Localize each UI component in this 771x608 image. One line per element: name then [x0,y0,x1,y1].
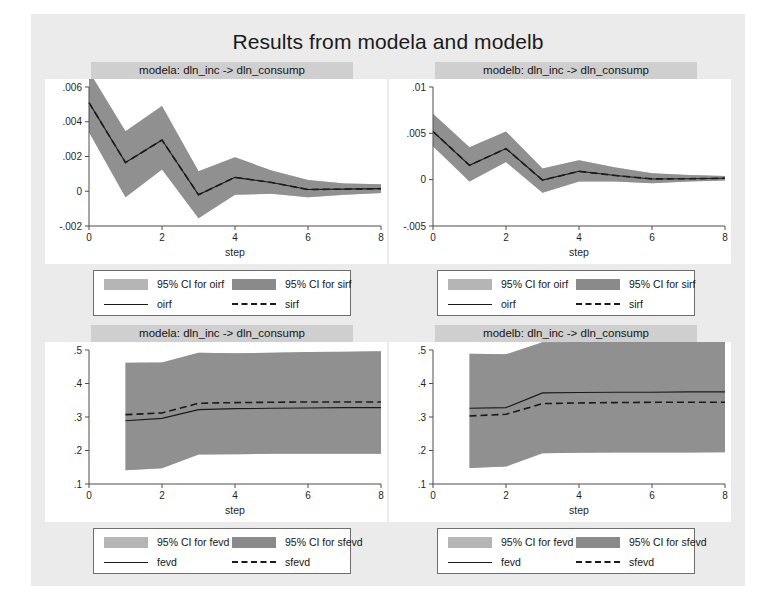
y-tick-label: -.002 [59,221,82,232]
legend-line-glyph [448,562,492,563]
x-tick-label: 0 [86,232,92,243]
legend-box: 95% CI for oirf95% CI for sirfoirfsirf [93,270,351,316]
legend-dashed-line-icon [232,299,276,310]
y-tick-label: .1 [418,479,427,490]
x-tick-label: 4 [232,490,238,501]
plot-area: -.0050.005.0102468step [389,79,731,264]
legend-item: sirf [232,297,299,311]
legend-line-glyph [232,561,276,563]
legend-label: sfevd [629,556,654,568]
legend-label: sfevd [285,556,310,568]
legend-swatch-icon [232,279,276,290]
legend-line-glyph [448,304,492,305]
x-tick-label: 8 [378,232,384,243]
legend-label: oirf [157,298,172,310]
x-tick-label: 8 [378,490,384,501]
legend-box: 95% CI for oirf95% CI for sirfoirfsirf [437,270,695,316]
y-tick-label: .5 [418,345,427,356]
legend-swatch-icon [576,537,620,548]
legend-inner: 95% CI for fevd95% CI for sfevdfevdsfevd [94,529,350,573]
legend-label: 95% CI for sfevd [285,536,363,548]
legend-dashed-line-icon [576,557,620,568]
figure-canvas: Results from modela and modelb modela: d… [31,14,745,586]
x-tick-label: 6 [649,232,655,243]
legend-label: 95% CI for sfevd [629,536,707,548]
plot-area: .1.2.3.4.502468step [45,342,387,522]
legend-box: 95% CI for fevd95% CI for sfevdfevdsfevd [93,528,351,574]
legend-swatch-icon [448,537,492,548]
legend-swatch-icon [232,537,276,548]
legend-solid-line-icon [104,299,148,310]
ci-band-sfevd [126,351,382,470]
y-tick-label: .2 [418,445,427,456]
y-tick-label: .002 [63,151,83,162]
x-tick-label: 0 [86,490,92,501]
y-tick-label: .3 [418,412,427,423]
legend-line-glyph [576,303,620,305]
legend-item: sirf [576,297,643,311]
x-tick-label: 6 [305,232,311,243]
legend-solid-line-icon [104,557,148,568]
y-tick-label: .01 [412,82,426,93]
legend-item: 95% CI for sirf [576,277,696,291]
legend-label: fevd [157,556,177,568]
y-tick-label: .4 [418,378,427,389]
legend-label: 95% CI for sirf [285,278,352,290]
legend-item: 95% CI for sfevd [576,535,707,549]
legend-inner: 95% CI for oirf95% CI for sirfoirfsirf [438,271,694,315]
legend-item: 95% CI for oirf [104,277,224,291]
legend-line-glyph [104,304,148,305]
x-tick-label: 4 [232,232,238,243]
ci-band-sfevd [470,342,726,468]
panel-fevd-modelb: modelb: dln_inc -> dln_consump .1.2.3.4.… [389,325,731,575]
legend-item: oirf [104,297,172,311]
ci-band-sirf [433,114,725,193]
y-tick-label: 0 [76,186,82,197]
chart-svg-irf-modela: -.0020.002.004.00602468step [45,79,387,264]
x-tick-label: 0 [430,490,436,501]
legend-box: 95% CI for fevd95% CI for sfevdfevdsfevd [437,528,695,574]
legend-label: 95% CI for oirf [157,278,224,290]
legend-line-glyph [232,303,276,305]
legend-dashed-line-icon [576,299,620,310]
y-tick-label: .4 [74,378,83,389]
legend-line-glyph [104,562,148,563]
panel-title: modela: dln_inc -> dln_consump [91,62,353,79]
legend-label: oirf [501,298,516,310]
legend-item: sfevd [232,555,310,569]
y-tick-label: .5 [74,345,83,356]
x-tick-label: 4 [576,490,582,501]
y-tick-label: -.005 [403,221,426,232]
x-tick-label: 0 [430,232,436,243]
legend-item: 95% CI for oirf [448,277,568,291]
y-tick-label: .1 [74,479,83,490]
legend-swatch-icon [448,279,492,290]
legend-item: 95% CI for sirf [232,277,352,291]
y-tick-label: .2 [74,445,83,456]
x-tick-label: 6 [305,490,311,501]
legend-label: sirf [629,298,643,310]
x-axis-title: step [225,504,245,516]
panel-title: modelb: dln_inc -> dln_consump [435,325,697,342]
legend-label: 95% CI for fevd [501,536,573,548]
y-tick-label: .3 [74,412,83,423]
x-tick-label: 8 [722,232,728,243]
legend-swatch-icon [104,537,148,548]
legend-label: 95% CI for sirf [629,278,696,290]
panel-irf-modelb: modelb: dln_inc -> dln_consump -.0050.00… [389,62,731,317]
legend-solid-line-icon [448,557,492,568]
legend-label: 95% CI for fevd [157,536,229,548]
legend-item: fevd [448,555,521,569]
legend-swatch-icon [104,279,148,290]
legend-item: 95% CI for fevd [448,535,573,549]
legend-inner: 95% CI for fevd95% CI for sfevdfevdsfevd [438,529,694,573]
legend-line-glyph [576,561,620,563]
y-tick-label: 0 [420,174,426,185]
panel-fevd-modela: modela: dln_inc -> dln_consump .1.2.3.4.… [45,325,387,575]
legend-label: fevd [501,556,521,568]
screenshot-root: Results from modela and modelb modela: d… [0,0,771,608]
x-tick-label: 8 [722,490,728,501]
legend-dashed-line-icon [232,557,276,568]
panel-irf-modela: modela: dln_inc -> dln_consump -.0020.00… [45,62,387,317]
plot-area: .1.2.3.4.502468step [389,342,731,522]
